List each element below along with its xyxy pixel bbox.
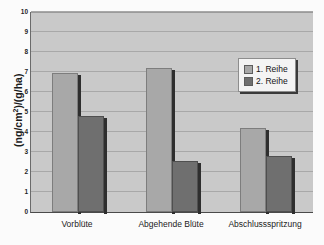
x-axis-category-label: Vorblüte (61, 219, 92, 229)
bar-shadow (104, 118, 107, 214)
y-axis-tick-label: 10 (12, 9, 28, 16)
legend-entry: 1. Reihe (244, 63, 288, 75)
bar-body (240, 128, 266, 212)
y-axis-tick-label: 2 (12, 169, 28, 176)
bar-body (78, 116, 104, 212)
y-axis-tick-label: 3 (12, 149, 28, 156)
legend-swatch-icon (244, 65, 253, 74)
bar-group (146, 12, 198, 212)
bar-body (52, 73, 78, 212)
bar (240, 128, 266, 212)
bar-chart: (ng/cm2)/(g/ha) 012345678910 VorblüteAbg… (0, 0, 324, 245)
legend-label: 2. Reihe (256, 76, 288, 86)
x-axis-category-labels: VorblüteAbgehende BlüteAbschlussspritzun… (30, 219, 312, 239)
bar (266, 156, 292, 212)
bar (146, 68, 172, 212)
y-axis-tick-label: 9 (12, 29, 28, 36)
x-axis-category-label: Abgehende Blüte (138, 219, 203, 229)
legend-entry: 2. Reihe (244, 75, 288, 87)
chart-legend: 1. Reihe2. Reihe (238, 58, 296, 92)
bars-layer (31, 12, 313, 212)
y-axis-tick-label: 5 (12, 109, 28, 116)
legend-label: 1. Reihe (256, 64, 288, 74)
bar-body (172, 161, 198, 212)
bar-shadow (292, 158, 295, 214)
y-axis-tick-label: 0 (12, 209, 28, 216)
bar-body (266, 156, 292, 212)
plot-area (30, 12, 313, 213)
bar-shadow (198, 163, 201, 214)
x-axis-category-label: Abschlussspritzung (228, 219, 301, 229)
y-axis-tick-label: 7 (12, 69, 28, 76)
y-axis-tick-label: 4 (12, 129, 28, 136)
bar (78, 116, 104, 212)
y-axis-tick-labels: 012345678910 (12, 12, 28, 212)
legend-swatch-icon (244, 77, 253, 86)
bar-group (52, 12, 104, 212)
bar (172, 161, 198, 212)
bar-group (240, 12, 292, 212)
y-axis-tick-label: 6 (12, 89, 28, 96)
y-axis-tick-label: 8 (12, 49, 28, 56)
bar-body (146, 68, 172, 212)
bar (52, 73, 78, 212)
y-axis-tick-label: 1 (12, 189, 28, 196)
